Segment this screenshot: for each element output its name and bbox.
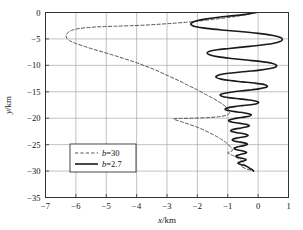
chart-legend: b=30b=2.7: [70, 144, 136, 172]
legend-label-1: b=2.7: [102, 159, 122, 169]
x-tick-label: −7: [41, 201, 50, 211]
x-tick-label: −2: [193, 201, 202, 211]
y-tick-label: −25: [27, 140, 40, 150]
y-tick-label: −10: [27, 60, 40, 70]
y-tick-label: −30: [27, 166, 40, 176]
x-tick-label: −5: [102, 201, 111, 211]
x-tick-label: −1: [223, 201, 232, 211]
y-tick-label: 0: [36, 8, 40, 18]
y-axis-label: y/km: [3, 96, 13, 115]
y-tick-label: −20: [27, 113, 40, 123]
y-tick-label: −35: [27, 193, 40, 203]
chart-canvas: −7−6−5−4−3−2−1010−5−10−15−20−25−30−35 b=…: [0, 0, 303, 230]
x-tick-label: −3: [162, 201, 171, 211]
legend-label-0: b=30: [102, 148, 120, 158]
x-tick-label: 1: [286, 201, 290, 211]
y-tick-label: −5: [31, 34, 40, 44]
y-tick-label: −15: [27, 87, 40, 97]
chart-figure: −7−6−5−4−3−2−1010−5−10−15−20−25−30−35 b=…: [0, 0, 303, 230]
x-tick-label: −6: [71, 201, 80, 211]
x-tick-label: 0: [256, 201, 260, 211]
x-axis-label: x/km: [157, 215, 176, 225]
x-tick-label: −4: [132, 201, 142, 211]
